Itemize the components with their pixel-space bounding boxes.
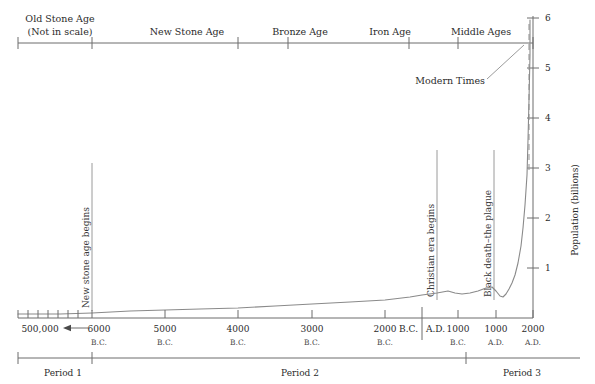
- time-label-2000-ad: 2000: [522, 324, 545, 334]
- time-sublabel-3000-bc: B.C.: [304, 338, 320, 347]
- y-tick-label-3: 3: [545, 163, 551, 173]
- time-sublabel-6000-bc: B.C.: [91, 338, 107, 347]
- era-label-old-stone-age: Old Stone Age: [25, 13, 95, 24]
- time-label-1000-ad: 1000: [485, 324, 508, 334]
- era-axis: Old Stone Age (Not in scale) New Stone A…: [18, 13, 533, 86]
- time-label-ad-boundary: A.D.: [425, 324, 445, 334]
- time-label-1000-bc: 1000: [447, 324, 470, 334]
- time-label-6000: 6000: [88, 324, 111, 334]
- time-sublabel-1000-ad: A.D.: [487, 338, 504, 347]
- era-label-middle-ages: Middle Ages: [451, 26, 511, 37]
- time-label-bc-boundary: B.C.: [399, 324, 418, 334]
- time-sublabel-2000-ad: A.D.: [524, 338, 541, 347]
- annot-label-black-death: Black death–the plague: [483, 190, 493, 297]
- era-label-iron-age: Iron Age: [369, 26, 411, 37]
- annotations: New stone age begins Christian era begin…: [81, 150, 494, 311]
- y-axis-title: Population (billions): [570, 164, 580, 256]
- period-label-2: Period 2: [281, 368, 319, 378]
- annot-label-christian-era: Christian era begins: [426, 204, 436, 297]
- y-tick-label-1: 1: [545, 263, 551, 273]
- y-axis: 6 5 4 3 2 1 Population (billions): [527, 13, 580, 318]
- time-label-2000-bc: 2000: [374, 324, 397, 334]
- chart-svg: Old Stone Age (Not in scale) New Stone A…: [0, 0, 595, 384]
- population-curve-group: [18, 20, 530, 314]
- population-curve: [18, 20, 530, 314]
- time-sublabel-5000-bc: B.C.: [157, 338, 173, 347]
- period-axis: Period 1 Period 2 Period 3: [18, 352, 580, 378]
- y-tick-label-6: 6: [545, 13, 551, 23]
- time-sublabel-1000-bc: B.C.: [450, 338, 466, 347]
- annot-label-new-stone-age: New stone age begins: [81, 207, 91, 308]
- era-label-modern-times: Modern Times: [415, 75, 485, 86]
- time-sublabel-4000-bc: B.C.: [230, 338, 246, 347]
- population-history-chart: Old Stone Age (Not in scale) New Stone A…: [0, 0, 595, 384]
- era-label-bronze-age: Bronze Age: [272, 26, 328, 37]
- time-label-5000: 5000: [154, 324, 177, 334]
- era-label-new-stone-age: New Stone Age: [150, 26, 225, 37]
- time-label-4000: 4000: [227, 324, 250, 334]
- y-tick-label-5: 5: [545, 63, 551, 73]
- time-label-3000: 3000: [301, 324, 324, 334]
- period-label-3: Period 3: [503, 368, 541, 378]
- time-sublabel-2000-bc: B.C.: [377, 338, 393, 347]
- period-label-1: Period 1: [44, 368, 82, 378]
- y-tick-label-2: 2: [545, 213, 551, 223]
- not-to-scale-arrow: [63, 325, 88, 331]
- y-tick-label-4: 4: [545, 113, 551, 123]
- time-label-500000: 500,000: [21, 324, 58, 334]
- modern-times-leader-line: [487, 45, 524, 79]
- era-sublabel-not-in-scale: (Not in scale): [28, 26, 93, 37]
